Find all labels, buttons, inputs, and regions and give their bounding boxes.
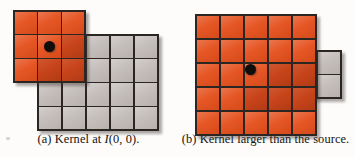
kernel-cell xyxy=(244,39,269,64)
kernel-cell xyxy=(292,39,317,64)
source-cell xyxy=(62,106,87,131)
kernel-grid-b xyxy=(195,14,317,136)
kernel-cell xyxy=(196,15,221,40)
kernel-cell-overlap xyxy=(268,63,293,88)
figure-root: (a) Kernel at I(0, 0). xyxy=(0,0,354,158)
source-cell xyxy=(134,106,159,131)
kernel-cell xyxy=(268,39,293,64)
caption-a-prefix: (a) Kernel at xyxy=(38,132,105,146)
kernel-cell xyxy=(220,111,245,136)
kernel-cell xyxy=(244,111,269,136)
kernel-cell xyxy=(37,11,62,36)
kernel-cell xyxy=(196,63,221,88)
caption-a: (a) Kernel at I(0, 0). xyxy=(0,131,177,147)
kernel-cell-overlap xyxy=(268,87,293,112)
kernel-cell-overlap xyxy=(244,87,269,112)
kernel-cell xyxy=(220,15,245,40)
source-cell xyxy=(317,51,341,75)
panel-kernel-at-origin: (a) Kernel at I(0, 0). xyxy=(0,0,177,158)
kernel-anchor-dot-a xyxy=(44,41,55,52)
kernel-cell xyxy=(220,63,245,88)
kernel-cell xyxy=(220,87,245,112)
source-cell xyxy=(110,35,135,60)
kernel-cell xyxy=(196,87,221,112)
source-cell xyxy=(134,82,159,107)
kernel-cell xyxy=(268,15,293,40)
source-cell xyxy=(134,58,159,83)
kernel-cell xyxy=(61,11,86,36)
kernel-cell xyxy=(292,15,317,40)
source-cell xyxy=(110,82,135,107)
kernel-cell xyxy=(268,111,293,136)
source-cell xyxy=(134,35,159,60)
diagram-b xyxy=(177,0,354,130)
source-cell xyxy=(86,82,111,107)
kernel-cell-overlap xyxy=(61,58,86,83)
kernel-cell-overlap xyxy=(292,63,317,88)
diagram-a xyxy=(0,0,177,130)
source-cell xyxy=(62,82,87,107)
kernel-cell xyxy=(220,39,245,64)
source-cell xyxy=(86,35,111,60)
kernel-cell-overlap xyxy=(292,87,317,112)
kernel-anchor-dot-b xyxy=(245,64,256,75)
kernel-cell xyxy=(14,11,39,36)
panel-kernel-larger-than-source: (b) Kernel larger than the source. xyxy=(177,0,354,158)
source-cell xyxy=(110,58,135,83)
kernel-cell xyxy=(196,111,221,136)
source-cell xyxy=(38,106,63,131)
source-cell xyxy=(110,106,135,131)
source-cell xyxy=(86,106,111,131)
scan-artifact-speck xyxy=(6,137,10,140)
source-cell xyxy=(86,58,111,83)
kernel-cell xyxy=(292,111,317,136)
kernel-cell xyxy=(14,58,39,83)
kernel-cell-overlap xyxy=(61,34,86,59)
kernel-cell xyxy=(196,39,221,64)
kernel-cell-overlap xyxy=(37,58,62,83)
source-cell xyxy=(38,82,63,107)
source-cell xyxy=(317,74,341,98)
caption-a-suffix: (0, 0). xyxy=(109,132,140,146)
kernel-cell xyxy=(14,34,39,59)
kernel-cell xyxy=(244,15,269,40)
